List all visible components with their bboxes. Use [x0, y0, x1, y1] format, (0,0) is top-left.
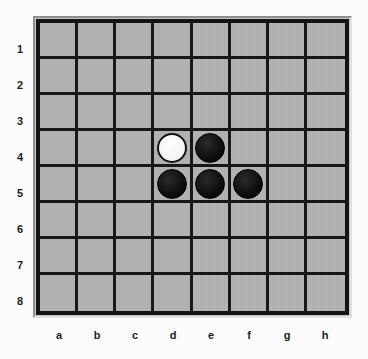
board-square-e5[interactable]: [193, 167, 231, 203]
board-square-c4[interactable]: [116, 131, 154, 167]
board-square-g8[interactable]: [269, 275, 307, 311]
black-disc-f5[interactable]: [233, 169, 263, 199]
board-square-f2[interactable]: [231, 59, 269, 95]
board-square-d8[interactable]: [154, 275, 192, 311]
board-square-e6[interactable]: [193, 203, 231, 239]
file-label-a: a: [47, 330, 71, 341]
file-label-d: d: [161, 330, 185, 341]
board-square-f8[interactable]: [231, 275, 269, 311]
board-square-a1[interactable]: [40, 23, 78, 59]
black-disc-e4[interactable]: [195, 133, 225, 163]
board-square-f7[interactable]: [231, 239, 269, 275]
board-square-f3[interactable]: [231, 95, 269, 131]
board-square-f6[interactable]: [231, 203, 269, 239]
board-square-h7[interactable]: [307, 239, 345, 275]
board-square-a2[interactable]: [40, 59, 78, 95]
board-square-g2[interactable]: [269, 59, 307, 95]
board-square-a8[interactable]: [40, 275, 78, 311]
rank-label-4: 4: [10, 152, 30, 163]
board-square-b1[interactable]: [78, 23, 116, 59]
board-square-a4[interactable]: [40, 131, 78, 167]
board-square-c6[interactable]: [116, 203, 154, 239]
board-square-a6[interactable]: [40, 203, 78, 239]
board-square-g7[interactable]: [269, 239, 307, 275]
board-square-c5[interactable]: [116, 167, 154, 203]
rank-label-8: 8: [10, 296, 30, 307]
file-label-c: c: [123, 330, 147, 341]
board-square-e7[interactable]: [193, 239, 231, 275]
board-square-e3[interactable]: [193, 95, 231, 131]
board-square-b2[interactable]: [78, 59, 116, 95]
board-square-h4[interactable]: [307, 131, 345, 167]
rank-label-5: 5: [10, 188, 30, 199]
file-label-h: h: [313, 330, 337, 341]
board-square-d4[interactable]: [154, 131, 192, 167]
board-square-e8[interactable]: [193, 275, 231, 311]
board-square-c2[interactable]: [116, 59, 154, 95]
board-square-f1[interactable]: [231, 23, 269, 59]
board-grid: [40, 23, 345, 311]
board-square-b6[interactable]: [78, 203, 116, 239]
board-square-d7[interactable]: [154, 239, 192, 275]
board-square-a5[interactable]: [40, 167, 78, 203]
board-square-f4[interactable]: [231, 131, 269, 167]
black-disc-d5[interactable]: [157, 169, 187, 199]
rank-label-2: 2: [10, 80, 30, 91]
rank-label-3: 3: [10, 116, 30, 127]
rank-label-6: 6: [10, 224, 30, 235]
board-square-c8[interactable]: [116, 275, 154, 311]
file-label-f: f: [237, 330, 261, 341]
board-square-g5[interactable]: [269, 167, 307, 203]
board-square-h3[interactable]: [307, 95, 345, 131]
board-square-b4[interactable]: [78, 131, 116, 167]
board-square-c1[interactable]: [116, 23, 154, 59]
file-label-b: b: [85, 330, 109, 341]
board-square-h6[interactable]: [307, 203, 345, 239]
board-square-c3[interactable]: [116, 95, 154, 131]
board-square-b7[interactable]: [78, 239, 116, 275]
board-square-d2[interactable]: [154, 59, 192, 95]
file-label-g: g: [275, 330, 299, 341]
board-square-a3[interactable]: [40, 95, 78, 131]
board-square-h5[interactable]: [307, 167, 345, 203]
board-square-b3[interactable]: [78, 95, 116, 131]
board-square-c7[interactable]: [116, 239, 154, 275]
board-square-a7[interactable]: [40, 239, 78, 275]
board-square-g1[interactable]: [269, 23, 307, 59]
board-square-d3[interactable]: [154, 95, 192, 131]
board-square-g6[interactable]: [269, 203, 307, 239]
board-square-g3[interactable]: [269, 95, 307, 131]
board-square-e4[interactable]: [193, 131, 231, 167]
black-disc-e5[interactable]: [195, 169, 225, 199]
othello-board-figure: 1 2 3 4 5 6 7 8: [0, 0, 368, 359]
board-square-b8[interactable]: [78, 275, 116, 311]
board-square-f5[interactable]: [231, 167, 269, 203]
board-square-e2[interactable]: [193, 59, 231, 95]
file-label-e: e: [199, 330, 223, 341]
rank-label-7: 7: [10, 260, 30, 271]
board-square-e1[interactable]: [193, 23, 231, 59]
board-square-d6[interactable]: [154, 203, 192, 239]
board-square-d5[interactable]: [154, 167, 192, 203]
board-square-h1[interactable]: [307, 23, 345, 59]
rank-label-1: 1: [10, 44, 30, 55]
board-square-g4[interactable]: [269, 131, 307, 167]
board-square-d1[interactable]: [154, 23, 192, 59]
board-square-h8[interactable]: [307, 275, 345, 311]
white-disc-d4[interactable]: [157, 133, 187, 163]
board-square-h2[interactable]: [307, 59, 345, 95]
board-square-b5[interactable]: [78, 167, 116, 203]
